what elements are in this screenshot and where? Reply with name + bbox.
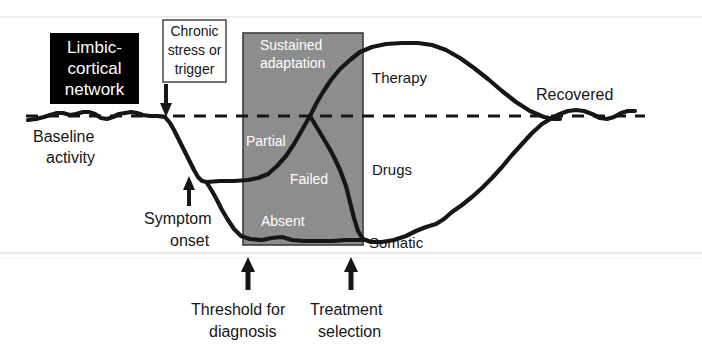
label-symptom-onset-line-1: Symptom	[144, 210, 212, 227]
label-threshold-for-diagnosis-line-1: Threshold for	[191, 301, 286, 318]
label-treatment-selection-line-1: Treatment	[310, 301, 383, 318]
label-drugs: Drugs	[372, 161, 412, 178]
label-symptom-onset-line-2: onset	[170, 232, 210, 249]
label-partial: Partial	[246, 133, 286, 149]
label-threshold-for-diagnosis-line-2: diagnosis	[209, 323, 277, 340]
limbic-cortical-network-diagram: Limbic- cortical network Chronic stress …	[0, 0, 702, 361]
label-baseline-activity-line-1: Baseline	[33, 128, 94, 145]
callout-line-1: Chronic	[170, 23, 218, 39]
label-sustained-adaptation-line-2: adaptation	[260, 55, 325, 71]
label-absent: Absent	[261, 213, 305, 229]
callout-line-2: stress or	[168, 42, 222, 58]
label-treatment-selection-line-2: selection	[318, 323, 381, 340]
label-failed: Failed	[290, 171, 328, 187]
label-baseline-activity-line-2: activity	[46, 149, 95, 166]
label-recovered: Recovered	[536, 86, 613, 103]
label-somatic: Somatic	[369, 234, 424, 251]
label-sustained-adaptation-line-1: Sustained	[260, 37, 322, 53]
label-therapy: Therapy	[372, 69, 428, 86]
callout-line-3: trigger	[175, 61, 215, 77]
figure-canvas: Limbic- cortical network Chronic stress …	[0, 0, 702, 361]
limbic-box-line-2: cortical	[68, 59, 122, 78]
limbic-box-line-3: network	[65, 80, 125, 99]
limbic-box-line-1: Limbic-	[67, 38, 122, 57]
